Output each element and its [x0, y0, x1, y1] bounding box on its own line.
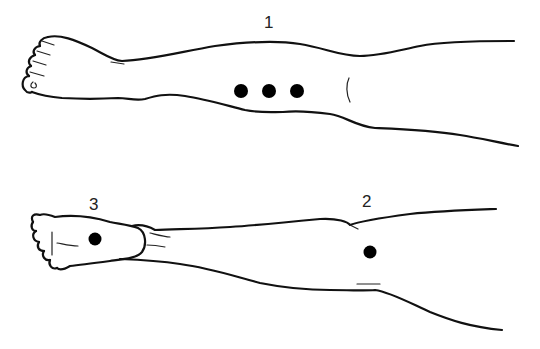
view-label-1: 1	[264, 14, 273, 31]
view-label-3: 3	[89, 196, 98, 213]
acupoints	[89, 84, 377, 259]
leg-acupoint-diagram: 1 2 3	[0, 0, 540, 349]
point-1b	[262, 84, 276, 98]
diagram-drawing	[0, 0, 540, 349]
leg-posterior-view	[32, 209, 502, 330]
point-1c	[290, 84, 304, 98]
point-3	[89, 233, 102, 246]
point-2	[364, 246, 377, 259]
point-1a	[234, 84, 248, 98]
view-label-2: 2	[362, 193, 371, 210]
